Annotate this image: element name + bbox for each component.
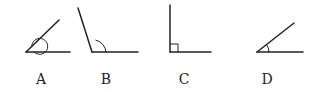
label-d: D	[261, 72, 272, 86]
label-a: A	[36, 72, 46, 86]
label-b: B	[101, 72, 111, 86]
angle-c	[170, 5, 211, 52]
label-c: C	[179, 72, 190, 86]
angle-d	[257, 23, 303, 52]
angle-b	[78, 8, 138, 52]
angle-a	[26, 20, 70, 54]
